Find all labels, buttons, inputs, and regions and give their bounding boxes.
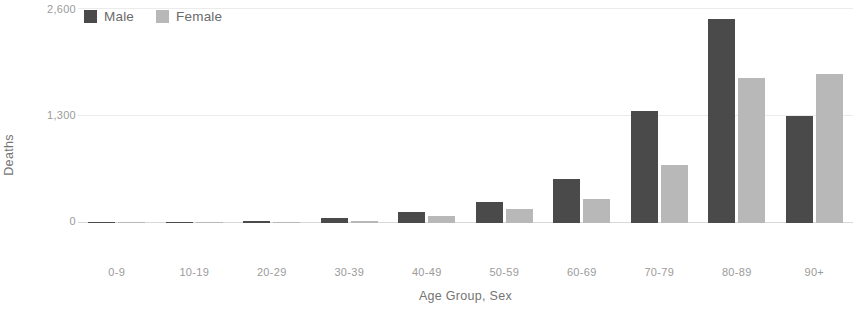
y-axis-ticks: 2,600 1,300 0 <box>0 0 76 309</box>
bar-female-10-19[interactable] <box>196 222 223 223</box>
x-tick-label-10-19: 10-19 <box>156 266 234 284</box>
bar-female-30-39[interactable] <box>351 221 378 223</box>
bar-groups <box>78 8 853 223</box>
x-tick-label-70-79: 70-79 <box>621 266 699 284</box>
plot-area <box>78 8 853 259</box>
bar-female-80-89[interactable] <box>738 78 765 223</box>
bar-male-90-plus[interactable] <box>786 116 813 223</box>
bar-male-20-29[interactable] <box>243 221 270 223</box>
bar-male-30-39[interactable] <box>321 218 348 223</box>
bar-group-40-49 <box>388 8 466 223</box>
x-tick-label-60-69: 60-69 <box>543 266 621 284</box>
bar-female-0-9[interactable] <box>118 222 145 223</box>
bar-group-80-89 <box>698 8 776 223</box>
x-axis-title: Age Group, Sex <box>78 289 853 303</box>
x-tick-label-50-59: 50-59 <box>466 266 544 284</box>
bar-male-40-49[interactable] <box>398 212 425 223</box>
bar-group-50-59 <box>466 8 544 223</box>
bar-group-0-9 <box>78 8 156 223</box>
bar-chart: Male Female Deaths 2,600 1,300 0 <box>0 0 857 309</box>
y-tick-label-0: 0 <box>12 215 76 227</box>
bar-female-50-59[interactable] <box>506 209 533 223</box>
bar-male-60-69[interactable] <box>553 179 580 223</box>
bar-male-70-79[interactable] <box>631 111 658 223</box>
bar-male-80-89[interactable] <box>708 19 735 223</box>
bar-group-10-19 <box>156 8 234 223</box>
x-tick-label-20-29: 20-29 <box>233 266 311 284</box>
bar-female-20-29[interactable] <box>273 222 300 223</box>
x-tick-label-30-39: 30-39 <box>311 266 389 284</box>
bar-male-10-19[interactable] <box>166 222 193 223</box>
y-tick-label-1300: 1,300 <box>12 109 76 121</box>
bar-female-60-69[interactable] <box>583 199 610 223</box>
x-tick-label-40-49: 40-49 <box>388 266 466 284</box>
bar-group-90-plus <box>776 8 854 223</box>
bar-male-50-59[interactable] <box>476 202 503 223</box>
bar-male-0-9[interactable] <box>88 222 115 223</box>
y-tick-label-2600: 2,600 <box>12 3 76 15</box>
bar-female-90-plus[interactable] <box>816 74 843 223</box>
bar-female-70-79[interactable] <box>661 165 688 223</box>
x-tick-label-0-9: 0-9 <box>78 266 156 284</box>
bar-group-70-79 <box>621 8 699 223</box>
bar-female-40-49[interactable] <box>428 216 455 223</box>
x-tick-label-80-89: 80-89 <box>698 266 776 284</box>
x-axis-ticks: 0-9 10-19 20-29 30-39 40-49 50-59 60-69 … <box>78 266 853 284</box>
x-tick-label-90-plus: 90+ <box>776 266 854 284</box>
bar-group-30-39 <box>311 8 389 223</box>
bar-group-60-69 <box>543 8 621 223</box>
bar-group-20-29 <box>233 8 311 223</box>
